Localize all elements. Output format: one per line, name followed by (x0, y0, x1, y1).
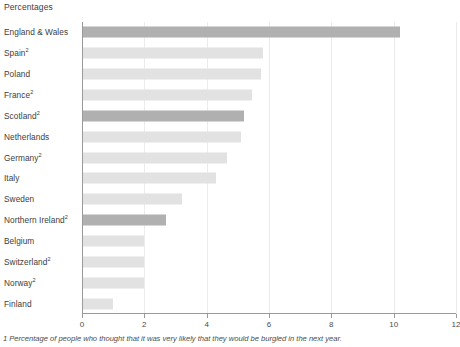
chart-title: Percentages (4, 2, 53, 12)
bar (83, 110, 244, 121)
bar-row: Northern Ireland2 (0, 210, 459, 231)
footnote-marker: 2 (47, 256, 50, 262)
x-tick-label: 6 (267, 320, 271, 329)
x-tick-mark (207, 314, 208, 318)
footnote-marker: 2 (37, 110, 40, 116)
x-tick-mark (456, 314, 457, 318)
bar (83, 298, 113, 309)
footnote-marker: 2 (32, 277, 35, 283)
x-tick-label: 12 (452, 320, 460, 329)
category-label: Spain2 (4, 48, 29, 58)
bar (83, 152, 227, 163)
bar (83, 173, 216, 184)
category-label: Finland (4, 299, 32, 309)
bar-row: England & Wales (0, 22, 459, 43)
x-tick-label: 10 (389, 320, 398, 329)
x-tick-label: 0 (80, 320, 84, 329)
bar (83, 48, 263, 59)
bar (83, 89, 252, 100)
x-tick-mark (144, 314, 145, 318)
x-tick-label: 8 (329, 320, 333, 329)
footnote-marker: 2 (65, 214, 68, 220)
bar-row: Switzerland2 (0, 251, 459, 272)
bar (83, 256, 144, 267)
bar (83, 69, 261, 80)
x-tick-label: 4 (204, 320, 208, 329)
bar-row: Netherlands (0, 126, 459, 147)
x-tick-mark (331, 314, 332, 318)
bar-row: Finland (0, 293, 459, 314)
category-label: Switzerland2 (4, 257, 51, 267)
category-label: Sweden (4, 194, 34, 204)
bar (83, 215, 166, 226)
category-label: Poland (4, 69, 30, 79)
category-label: Netherlands (4, 132, 49, 142)
x-tick-mark (269, 314, 270, 318)
footnote-marker: 2 (30, 89, 33, 95)
bar-row: Spain2 (0, 43, 459, 64)
category-label: Belgium (4, 236, 34, 246)
bar (83, 27, 400, 38)
bar-row: Scotland2 (0, 105, 459, 126)
category-label: England & Wales (4, 27, 68, 37)
chart-footnote: 1 Percentage of people who thought that … (3, 334, 342, 343)
category-label: Germany2 (4, 153, 42, 163)
category-label: Italy (4, 173, 19, 183)
category-label: Norway2 (4, 278, 36, 288)
bar-row: Sweden (0, 189, 459, 210)
bar-row: France2 (0, 85, 459, 106)
bar (83, 194, 182, 205)
bar-row: Poland (0, 64, 459, 85)
bar (83, 235, 144, 246)
bar-row: Italy (0, 168, 459, 189)
bar-row: Belgium (0, 231, 459, 252)
category-label: Scotland2 (4, 111, 40, 121)
x-tick-label: 2 (142, 320, 146, 329)
bar-row: Norway2 (0, 272, 459, 293)
footnote-marker: 2 (25, 48, 28, 54)
bar (83, 131, 241, 142)
x-tick-mark (394, 314, 395, 318)
category-label: Northern Ireland2 (4, 215, 68, 225)
x-tick-mark (82, 314, 83, 318)
footnote-marker: 2 (38, 152, 41, 158)
bar-row: Germany2 (0, 147, 459, 168)
category-label: France2 (4, 90, 33, 100)
bar (83, 277, 144, 288)
